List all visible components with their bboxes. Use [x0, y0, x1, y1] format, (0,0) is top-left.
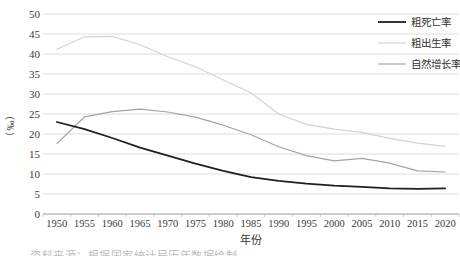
x-tick-label: 1950: [46, 218, 67, 229]
y-tick-label: 50: [29, 8, 41, 20]
y-axis-title: （‰）: [2, 94, 16, 156]
y-tick-label: 40: [29, 48, 41, 60]
legend-label-crude-death-rate: 粗死亡率: [411, 16, 451, 28]
series-line-crude-birth-rate: [57, 36, 445, 146]
x-tick-label: 1965: [130, 218, 151, 229]
y-tick-label: 25: [29, 108, 41, 120]
x-tick-label: 2020: [435, 218, 456, 229]
x-tick-label: 1975: [185, 218, 206, 229]
y-tick-label: 20: [29, 128, 41, 140]
series-line-natural-growth-rate: [57, 109, 445, 172]
y-tick-label: 30: [29, 88, 41, 100]
y-tick-label: 0: [35, 208, 41, 220]
y-tick-label: 15: [29, 148, 41, 160]
line-chart: 0510152025303540455019501955196019651970…: [0, 0, 460, 256]
x-tick-label: 2005: [351, 218, 372, 229]
x-tick-label: 1955: [74, 218, 95, 229]
x-tick-label: 1960: [102, 218, 123, 229]
x-tick-label: 2000: [324, 218, 345, 229]
legend-label-natural-growth-rate: 自然增长率: [411, 58, 460, 70]
x-tick-label: 1985: [241, 218, 262, 229]
x-axis-title: 年份: [151, 231, 351, 247]
x-tick-label: 1995: [296, 218, 317, 229]
y-tick-label: 45: [29, 28, 41, 40]
x-tick-label: 1990: [268, 218, 289, 229]
y-tick-label: 10: [29, 168, 41, 180]
y-tick-label: 5: [35, 188, 41, 200]
caption-text: 资料来源：根据国家统计局历年数据绘制。: [30, 250, 249, 256]
legend-label-crude-birth-rate: 粗出生率: [411, 37, 451, 49]
y-tick-label: 35: [29, 68, 41, 80]
x-tick-label: 2015: [407, 218, 428, 229]
caption-partial: 资料来源：根据国家统计局历年数据绘制。: [30, 249, 430, 256]
x-tick-label: 1980: [213, 218, 234, 229]
x-tick-label: 2010: [379, 218, 400, 229]
x-tick-label: 1970: [157, 218, 178, 229]
series-line-crude-death-rate: [57, 122, 445, 189]
chart-canvas: 0510152025303540455019501955196019651970…: [0, 0, 460, 256]
